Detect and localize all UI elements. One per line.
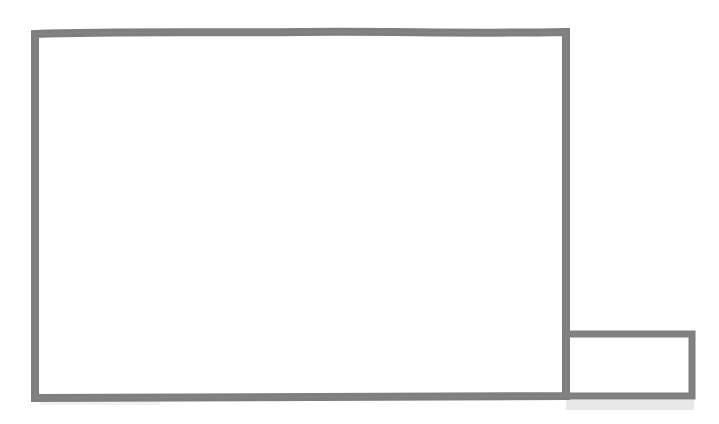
scan-smudge-bottom-right — [566, 400, 694, 410]
large-rectangle-fill — [35, 32, 566, 398]
drawing-canvas: Composite rectilinear figure Hand-drawn … — [0, 0, 719, 424]
composite-rectangle-figure — [0, 0, 719, 424]
small-rectangle-fill — [566, 334, 692, 396]
